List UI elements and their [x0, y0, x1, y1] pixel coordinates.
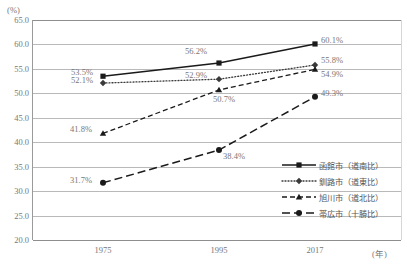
legend-marker-square-icon	[281, 159, 317, 171]
data-point-marker	[216, 60, 221, 65]
chart-legend: 函館市（道南比）釧路市（道東比）旭川市（道北比）帯広市（十勝比）	[281, 157, 405, 221]
legend-label: 釧路市（道東比）	[319, 175, 383, 187]
y-axis-tick-label: 60.0	[14, 40, 29, 49]
y-axis-tick-label: 50.0	[14, 89, 29, 98]
series-line	[103, 44, 315, 76]
y-axis-unit-label: (%)	[7, 5, 20, 15]
data-point-marker	[296, 162, 301, 167]
data-point-label: 41.8%	[70, 125, 92, 134]
data-point-marker	[100, 180, 106, 186]
legend-label: 函館市（道南比）	[319, 159, 383, 171]
data-point-label: 49.3%	[321, 89, 343, 98]
legend-item[interactable]: 旭川市（道北比）	[281, 189, 405, 205]
legend-marker-triangle-icon	[281, 191, 317, 203]
y-axis-tick-label: 45.0	[14, 114, 29, 123]
data-point-label: 52.1%	[71, 76, 93, 85]
data-point-marker	[312, 41, 317, 46]
legend-item[interactable]: 帯広市（十勝比）	[281, 205, 405, 221]
x-axis-unit-label: (年)	[372, 247, 387, 259]
data-point-label: 52.9%	[185, 71, 207, 80]
data-point-marker	[312, 66, 318, 72]
data-point-marker	[216, 76, 222, 82]
data-point-label: 60.1%	[321, 36, 343, 45]
data-point-label: 38.4%	[223, 152, 245, 161]
data-point-label: 31.7%	[70, 176, 92, 185]
data-point-marker	[296, 178, 302, 184]
y-axis-tick-label: 40.0	[14, 138, 29, 147]
data-point-label: 56.2%	[185, 47, 207, 56]
legend-marker-diamond-icon	[281, 175, 317, 187]
y-axis-tick-label: 65.0	[14, 16, 29, 25]
y-axis-tick-label: 35.0	[14, 162, 29, 171]
legend-label: 旭川市（道北比）	[319, 191, 383, 203]
legend-item[interactable]: 函館市（道南比）	[281, 157, 405, 173]
data-point-label: 54.9%	[321, 70, 343, 79]
y-axis-tick-label: 20.0	[14, 236, 29, 245]
data-point-marker	[216, 87, 222, 93]
x-axis-tick-label: 2017	[307, 245, 324, 255]
gridline	[33, 240, 401, 241]
y-axis-tick-label: 30.0	[14, 187, 29, 196]
data-point-label: 55.8%	[321, 56, 343, 65]
y-axis-tick-label: 25.0	[14, 211, 29, 220]
y-axis-tick-label: 55.0	[14, 65, 29, 74]
legend-item[interactable]: 釧路市（道東比）	[281, 173, 405, 189]
data-point-marker	[296, 210, 302, 216]
legend-label: 帯広市（十勝比）	[319, 207, 383, 219]
x-axis-tick-label: 1995	[211, 245, 228, 255]
x-axis-tick-label: 1975	[95, 245, 112, 255]
data-point-marker	[100, 74, 105, 79]
series-line	[103, 65, 315, 83]
data-point-marker	[216, 147, 222, 153]
legend-marker-circle-icon	[281, 207, 317, 219]
data-point-marker	[312, 94, 318, 100]
data-point-marker	[100, 80, 106, 86]
line-chart: (%) (年) 65.060.055.050.045.040.035.030.0…	[0, 0, 407, 275]
data-point-label: 50.7%	[213, 95, 235, 104]
